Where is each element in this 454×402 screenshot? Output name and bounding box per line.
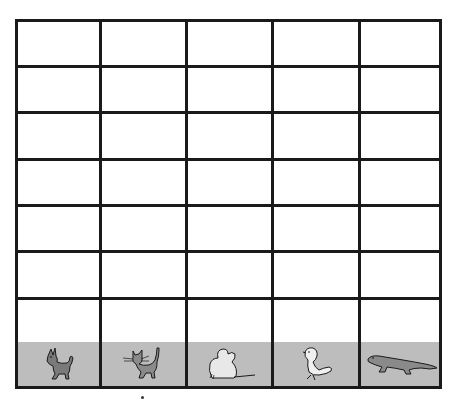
bird-icon	[293, 344, 339, 384]
dog-icon	[39, 344, 79, 384]
grid-row-line	[18, 111, 439, 114]
grid-row-line	[18, 204, 439, 207]
grid-column-line	[185, 22, 188, 386]
mouse-icon	[200, 344, 260, 384]
stray-mark	[141, 396, 144, 399]
animal-cell-bird	[274, 342, 358, 386]
grid-row-line	[18, 158, 439, 161]
grid-column-line	[271, 22, 274, 386]
grid-row-line	[18, 65, 439, 68]
grid-column-line	[358, 22, 361, 386]
cat-icon	[121, 344, 167, 384]
lizard-icon	[365, 346, 439, 382]
grid-row-line	[18, 297, 439, 300]
grid-row-line	[18, 250, 439, 253]
animal-cell-lizard	[361, 342, 442, 386]
animal-graph-grid	[15, 19, 442, 389]
animal-label-row	[18, 342, 439, 386]
animal-cell-cat	[102, 342, 185, 386]
animal-cell-dog	[18, 342, 99, 386]
animal-cell-mouse	[188, 342, 271, 386]
grid-column-line	[99, 22, 102, 386]
